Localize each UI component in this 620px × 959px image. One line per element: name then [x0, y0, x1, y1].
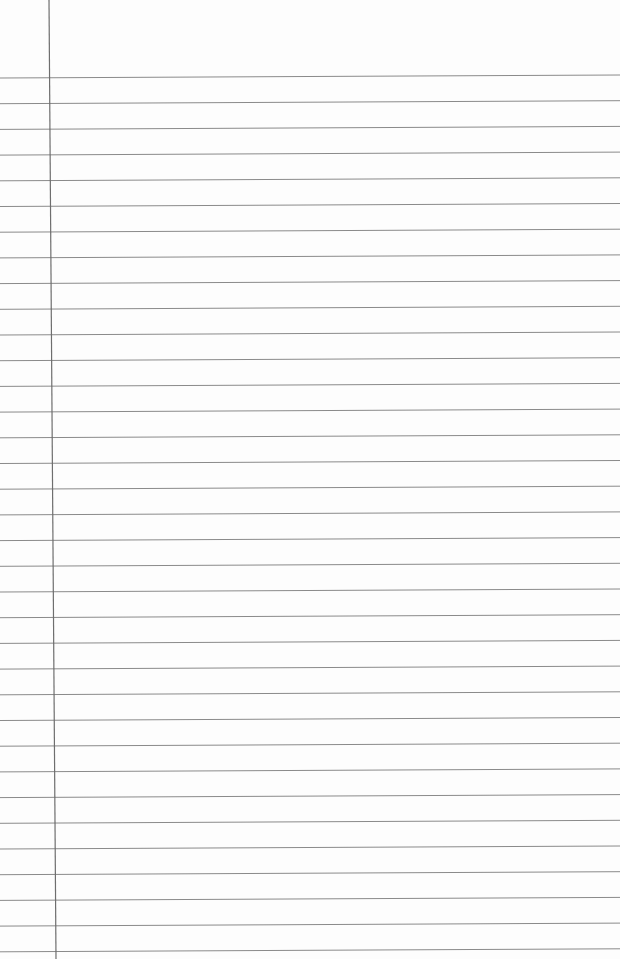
ruled-line [0, 255, 620, 258]
ruled-line [0, 820, 620, 823]
ruled-line [0, 769, 620, 772]
ruled-line [0, 229, 620, 232]
ruled-line [0, 897, 620, 900]
ruled-line [0, 486, 620, 489]
ruled-line [0, 795, 620, 798]
ruled-line [0, 743, 620, 746]
ruled-line [0, 692, 620, 695]
ruled-line [0, 538, 620, 541]
ruled-line [0, 383, 620, 386]
ruled-line [0, 461, 620, 464]
ruled-line [0, 75, 620, 78]
ruled-line [0, 281, 620, 284]
ruled-line [0, 204, 620, 207]
ruled-line [0, 358, 620, 361]
ruled-line [0, 640, 620, 643]
ruled-line [0, 872, 620, 875]
ruled-line [0, 126, 620, 129]
ruled-line [0, 589, 620, 592]
ruled-line [0, 923, 620, 926]
ruled-line [0, 152, 620, 155]
ruled-line [0, 718, 620, 721]
ruled-line [0, 332, 620, 335]
ruled-line [0, 512, 620, 515]
ruled-line [0, 101, 620, 104]
ruled-line [0, 178, 620, 181]
margin-line [49, 0, 56, 959]
ruled-line [0, 435, 620, 438]
ruled-line [0, 949, 620, 952]
ruled-line [0, 666, 620, 669]
ruled-line [0, 306, 620, 309]
ruled-line [0, 563, 620, 566]
ruled-line [0, 409, 620, 412]
ruled-line [0, 615, 620, 618]
ruled-paper [0, 0, 620, 959]
ruled-line [0, 846, 620, 849]
